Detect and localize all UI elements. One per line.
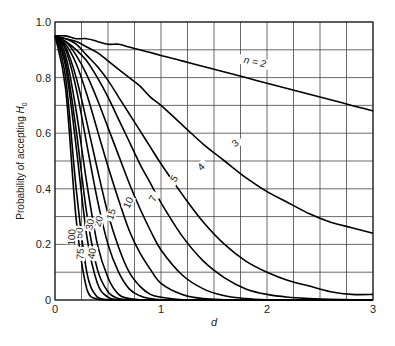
x-tick-labels: 0123 <box>52 303 376 315</box>
x-tick-label: 3 <box>370 303 376 315</box>
y-axis-label-sub: 0 <box>21 102 28 106</box>
y-tick-label: 1.0 <box>36 16 51 28</box>
chart-svg: n = 2345710152030405075100 0123 00.20.40… <box>0 0 395 346</box>
y-tick-label: 0.2 <box>36 238 51 250</box>
curve-label: 100 <box>66 228 78 245</box>
y-tick-label: 0 <box>45 294 51 306</box>
y-tick-label: 0.6 <box>36 127 51 139</box>
y-tick-label: 0.4 <box>36 183 51 195</box>
y-axis-label: Probability of accepting H0 <box>15 102 28 219</box>
curve-label: 75 <box>74 247 86 259</box>
x-axis-label: d <box>211 316 218 328</box>
x-tick-label: 2 <box>264 303 270 315</box>
grid-lines <box>55 22 373 300</box>
y-tick-label: 0.8 <box>36 72 51 84</box>
x-tick-label: 1 <box>158 303 164 315</box>
oc-curve-chart: n = 2345710152030405075100 0123 00.20.40… <box>0 0 395 346</box>
y-tick-labels: 00.20.40.60.81.0 <box>36 16 51 306</box>
curve-label: n = 2 <box>243 54 268 70</box>
y-axis-label-text: Probability of accepting <box>15 113 26 219</box>
y-axis-label-group: Probability of accepting H0 <box>15 102 28 219</box>
x-tick-label: 0 <box>52 303 58 315</box>
